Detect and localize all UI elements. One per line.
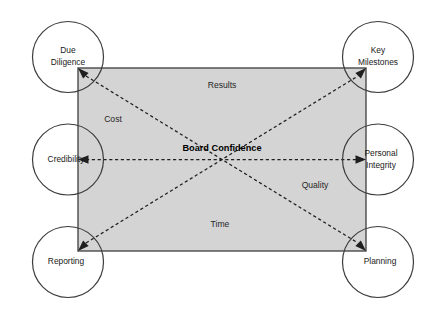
node-label-due-diligence-line1: Due xyxy=(60,45,76,55)
node-reporting[interactable]: Reporting xyxy=(33,227,104,298)
node-planning[interactable]: Planning xyxy=(343,227,414,298)
node-label-personal-integrity-line2: Integrity xyxy=(366,160,397,170)
zone-label-time: Time xyxy=(211,219,230,229)
node-due-diligence[interactable]: Due Diligence xyxy=(33,22,104,93)
node-credibility[interactable]: Credibility xyxy=(33,124,104,195)
diagram-canvas: Results Cost Quality Time Board Confiden… xyxy=(0,0,447,313)
zone-label-results: Results xyxy=(208,80,237,90)
zone-label-cost: Cost xyxy=(104,114,122,124)
board-confidence-diagram: Results Cost Quality Time Board Confiden… xyxy=(0,0,447,313)
node-key-milestones[interactable]: Key Milestones xyxy=(343,22,414,93)
node-label-key-milestones-line1: Key xyxy=(371,45,386,55)
node-label-reporting: Reporting xyxy=(48,256,85,266)
node-label-due-diligence-line2: Diligence xyxy=(51,57,86,67)
node-label-credibility: Credibility xyxy=(48,154,86,164)
node-label-personal-integrity-line1: Personal xyxy=(364,148,397,158)
zone-label-quality: Quality xyxy=(302,180,329,190)
node-personal-integrity[interactable]: Personal Integrity xyxy=(343,124,414,195)
center-label-board-confidence: Board Confidence xyxy=(182,143,261,153)
node-label-planning: Planning xyxy=(364,256,397,266)
node-label-key-milestones-line2: Milestones xyxy=(358,57,398,67)
